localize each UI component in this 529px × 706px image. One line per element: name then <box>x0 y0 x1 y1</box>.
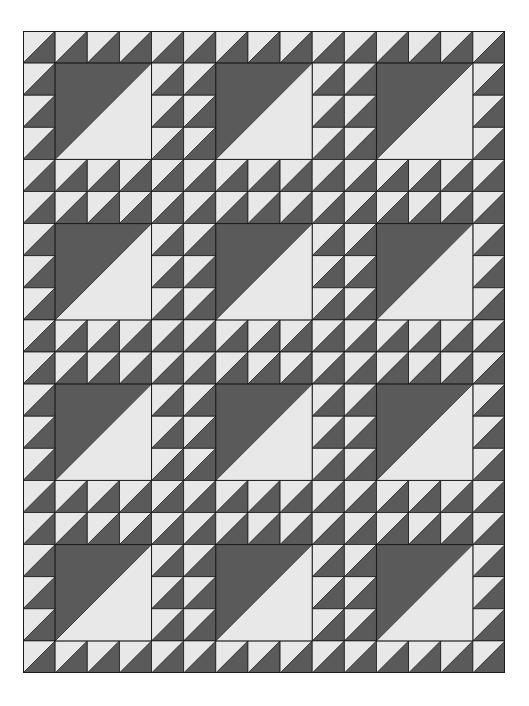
hst-cell <box>184 192 216 224</box>
hst-cell <box>152 352 184 384</box>
hst-cell <box>23 256 55 288</box>
hst-cell <box>409 159 441 191</box>
hst-cell <box>473 127 505 159</box>
hst-cell <box>216 31 248 63</box>
hst-cell <box>312 256 344 288</box>
hst-cell <box>23 577 55 609</box>
hst-cell <box>23 159 55 191</box>
hst-cell <box>152 224 184 256</box>
hst-cell <box>55 320 87 352</box>
hst-cell <box>152 416 184 448</box>
hst-cell <box>23 224 55 256</box>
hst-cell <box>23 127 55 159</box>
hst-cell <box>473 641 505 673</box>
hst-cell <box>23 480 55 512</box>
hst-cell <box>376 31 408 63</box>
hst-cell <box>473 609 505 641</box>
hst-cell <box>184 320 216 352</box>
hst-cell <box>55 159 87 191</box>
hst-cell <box>473 416 505 448</box>
hst-cell <box>312 352 344 384</box>
hst-cell <box>409 31 441 63</box>
hst-cell <box>184 224 216 256</box>
hst-cell <box>473 352 505 384</box>
hst-cell <box>23 95 55 127</box>
hst-cell <box>312 288 344 320</box>
quilt-image <box>23 31 505 673</box>
hst-cell <box>119 513 151 545</box>
hst-cell <box>87 513 119 545</box>
hst-cell <box>409 513 441 545</box>
hst-cell <box>376 513 408 545</box>
hst-cell <box>312 480 344 512</box>
big-hst-block <box>55 384 151 480</box>
hst-cell <box>473 256 505 288</box>
hst-cell <box>312 224 344 256</box>
hst-cell <box>312 159 344 191</box>
hst-cell <box>184 127 216 159</box>
hst-cell <box>184 31 216 63</box>
hst-cell <box>55 641 87 673</box>
hst-cell <box>23 513 55 545</box>
hst-cell <box>280 192 312 224</box>
hst-cell <box>409 320 441 352</box>
hst-cell <box>184 256 216 288</box>
hst-cell <box>152 127 184 159</box>
hst-cell <box>344 320 376 352</box>
hst-cell <box>184 480 216 512</box>
hst-cell <box>441 352 473 384</box>
hst-cell <box>152 513 184 545</box>
hst-cell <box>55 192 87 224</box>
hst-cell <box>184 159 216 191</box>
hst-cell <box>344 609 376 641</box>
hst-cell <box>312 384 344 416</box>
big-hst-block <box>376 545 472 641</box>
big-hst-block <box>55 224 151 320</box>
hst-cell <box>216 480 248 512</box>
hst-cell <box>376 352 408 384</box>
big-hst-block <box>216 545 312 641</box>
hst-cell <box>23 384 55 416</box>
hst-cell <box>376 641 408 673</box>
hst-cell <box>23 320 55 352</box>
hst-cell <box>344 63 376 95</box>
hst-cell <box>312 641 344 673</box>
hst-cell <box>23 448 55 480</box>
hst-cell <box>376 480 408 512</box>
hst-cell <box>119 320 151 352</box>
hst-cell <box>409 352 441 384</box>
hst-cell <box>473 288 505 320</box>
hst-cell <box>184 416 216 448</box>
hst-cell <box>312 513 344 545</box>
hst-cell <box>119 192 151 224</box>
hst-cell <box>473 63 505 95</box>
hst-cell <box>152 641 184 673</box>
hst-cell <box>248 352 280 384</box>
hst-cell <box>344 577 376 609</box>
hst-cell <box>473 480 505 512</box>
big-hst-block <box>376 384 472 480</box>
hst-cell <box>344 95 376 127</box>
hst-cell <box>23 288 55 320</box>
hst-cell <box>87 641 119 673</box>
hst-cell <box>184 641 216 673</box>
hst-cell <box>248 159 280 191</box>
hst-cell <box>184 63 216 95</box>
hst-cell <box>184 95 216 127</box>
hst-cell <box>312 127 344 159</box>
hst-cell <box>312 192 344 224</box>
hst-cell <box>344 192 376 224</box>
hst-cell <box>312 95 344 127</box>
hst-cell <box>312 609 344 641</box>
hst-cell <box>344 31 376 63</box>
hst-cell <box>473 513 505 545</box>
hst-cell <box>248 513 280 545</box>
hst-cell <box>312 31 344 63</box>
hst-cell <box>344 224 376 256</box>
big-hst-block <box>55 545 151 641</box>
hst-cell <box>152 448 184 480</box>
hst-cell <box>344 448 376 480</box>
hst-cell <box>312 63 344 95</box>
hst-cell <box>344 256 376 288</box>
hst-cell <box>87 192 119 224</box>
